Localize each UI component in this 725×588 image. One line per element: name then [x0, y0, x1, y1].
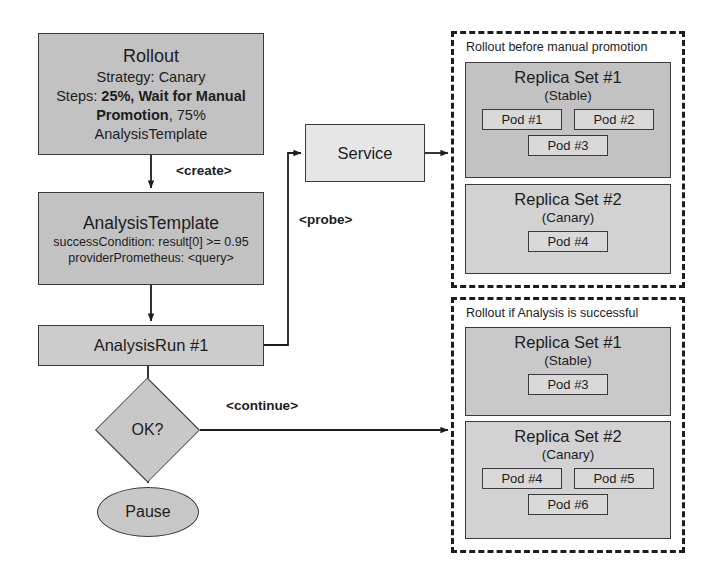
- node-service[interactable]: Service: [305, 124, 425, 182]
- replica-set-2-after[interactable]: Replica Set #2 (Canary) Pod #4 Pod #5 Po…: [465, 421, 671, 539]
- region-before-title: Rollout before manual promotion: [466, 40, 647, 54]
- replica-set-name: Replica Set #1: [466, 332, 670, 352]
- pod-item[interactable]: Pod #3: [528, 135, 608, 156]
- replica-set-role: (Canary): [466, 209, 670, 226]
- pod-item[interactable]: Pod #5: [574, 468, 654, 489]
- node-analysis-run[interactable]: AnalysisRun #1: [38, 325, 264, 366]
- replica-set-name: Replica Set #2: [466, 189, 670, 209]
- pod-item[interactable]: Pod #1: [482, 109, 562, 130]
- replica-set-role: (Stable): [466, 87, 670, 104]
- edge-run-to-service-probe: [264, 153, 301, 345]
- rollout-steps-prefix: Steps:: [56, 88, 101, 104]
- replica-set-2-before[interactable]: Replica Set #2 (Canary) Pod #4: [465, 184, 671, 274]
- node-pause[interactable]: Pause: [97, 487, 199, 537]
- rollout-steps-bold-2: Promotion: [96, 107, 169, 123]
- region-after-title: Rollout if Analysis is successful: [466, 306, 638, 320]
- pod-row: Pod #3: [466, 135, 670, 156]
- pod-row: Pod #6: [466, 494, 670, 515]
- replica-set-name: Replica Set #2: [466, 426, 670, 446]
- edge-label-create: <create>: [176, 163, 232, 178]
- rollout-steps-suffix: , 75%: [169, 107, 206, 123]
- pod-item[interactable]: Pod #3: [528, 374, 608, 395]
- pod-item[interactable]: Pod #4: [482, 468, 562, 489]
- pod-row: Pod #1 Pod #2: [466, 109, 670, 130]
- replica-set-role: (Stable): [466, 352, 670, 369]
- rollout-steps-line2: Promotion, 75%: [92, 106, 210, 125]
- rollout-template-ref: AnalysisTemplate: [95, 125, 208, 144]
- replica-set-role: (Canary): [466, 446, 670, 463]
- pod-row: Pod #3: [466, 374, 670, 395]
- analysis-run-title: AnalysisRun #1: [94, 336, 209, 355]
- pod-row: Pod #4 Pod #5: [466, 468, 670, 489]
- pod-row: Pod #4: [466, 231, 670, 252]
- pause-label: Pause: [125, 503, 170, 521]
- rollout-steps-bold-1: 25%, Wait for Manual: [101, 88, 245, 104]
- diagram-canvas: Rollout Strategy: Canary Steps: 25%, Wai…: [0, 0, 725, 588]
- node-analysis-template[interactable]: AnalysisTemplate successCondition: resul…: [38, 192, 264, 285]
- node-decision-ok[interactable]: OK?: [95, 398, 200, 462]
- rollout-steps: Steps: 25%, Wait for Manual: [52, 87, 250, 106]
- replica-set-1-after[interactable]: Replica Set #1 (Stable) Pod #3: [465, 327, 671, 416]
- edge-label-continue: <continue>: [226, 398, 298, 413]
- node-rollout[interactable]: Rollout Strategy: Canary Steps: 25%, Wai…: [38, 33, 264, 155]
- replica-set-1-before[interactable]: Replica Set #1 (Stable) Pod #1 Pod #2 Po…: [465, 62, 671, 178]
- pod-item[interactable]: Pod #6: [528, 494, 608, 515]
- service-label: Service: [337, 144, 392, 163]
- replica-set-name: Replica Set #1: [466, 67, 670, 87]
- analysis-template-provider: providerPrometheus: <query>: [68, 250, 233, 266]
- rollout-strategy: Strategy: Canary: [97, 68, 206, 87]
- rollout-title: Rollout: [123, 45, 179, 67]
- decision-label: OK?: [95, 398, 200, 462]
- analysis-template-success-condition: successCondition: result[0] >= 0.95: [53, 234, 248, 250]
- analysis-template-title: AnalysisTemplate: [83, 212, 219, 234]
- edge-label-probe: <probe>: [299, 212, 352, 227]
- pod-item[interactable]: Pod #4: [528, 231, 608, 252]
- pod-item[interactable]: Pod #2: [574, 109, 654, 130]
